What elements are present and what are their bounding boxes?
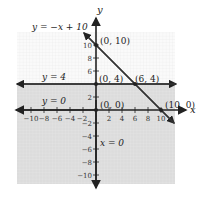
- svg-text:−2: −2: [82, 120, 92, 128]
- svg-text:10: 10: [83, 42, 92, 50]
- pt-0-0-label: (0, 0): [100, 100, 124, 110]
- y-axis-label: y: [96, 4, 103, 15]
- pt-0-10-label: (0, 10): [100, 36, 130, 46]
- svg-text:2: 2: [88, 94, 92, 102]
- svg-text:6: 6: [133, 115, 138, 123]
- point-0-4: [94, 82, 98, 86]
- svg-text:−6: −6: [52, 115, 63, 123]
- graph: −10 −8 −6 −4 −2 2 4 6 8 10 10 8 6 2 −2 −…: [0, 0, 207, 198]
- svg-text:−10: −10: [24, 115, 39, 123]
- eq-line-label: y = −x + 10: [31, 22, 88, 32]
- pt-10-0-label: (10, 0): [165, 100, 195, 110]
- point-10-0: [159, 108, 163, 112]
- eq-x0-label: x = 0: [100, 138, 124, 148]
- svg-text:8: 8: [146, 115, 150, 123]
- point-0-0: [94, 108, 98, 112]
- svg-text:4: 4: [120, 115, 125, 123]
- pt-0-4-label: (0, 4): [99, 74, 123, 84]
- eq-y4-label: y = 4: [41, 72, 66, 82]
- eq-y0-label: y = 0: [41, 96, 66, 106]
- svg-text:2: 2: [107, 115, 111, 123]
- svg-text:10: 10: [157, 115, 166, 123]
- svg-text:6: 6: [88, 68, 93, 76]
- point-0-10: [94, 43, 98, 47]
- svg-text:−4: −4: [82, 133, 93, 141]
- svg-text:−6: −6: [82, 146, 93, 154]
- svg-text:8: 8: [88, 55, 92, 63]
- svg-text:−4: −4: [65, 115, 76, 123]
- pt-6-4-label: (6, 4): [135, 74, 159, 84]
- svg-text:−8: −8: [39, 115, 49, 123]
- svg-text:−8: −8: [82, 159, 92, 167]
- svg-text:−10: −10: [77, 172, 92, 180]
